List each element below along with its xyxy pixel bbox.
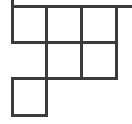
col2-right-line [80,5,83,80]
row2-bottom-line [11,77,118,80]
row1-bottom-line [11,41,118,44]
row3-left-line [11,77,14,117]
col1-right-line [45,5,48,117]
grid-diagram [0,0,132,124]
top-axis-line [11,5,132,8]
col3-right-line [115,5,118,80]
row3-bottom-line [11,114,48,117]
